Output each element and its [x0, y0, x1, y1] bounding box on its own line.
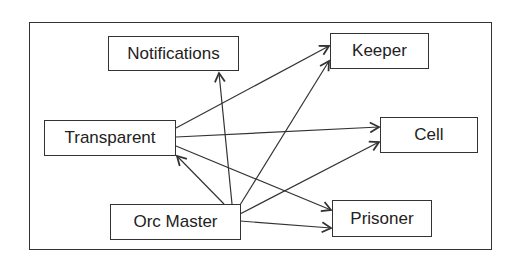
node-transparent: Transparent — [44, 120, 176, 156]
edge-orcmaster-notifications — [219, 73, 232, 204]
node-label: Prisoner — [350, 209, 413, 229]
node-label: Orc Master — [133, 212, 217, 232]
diagram: Notifications Keeper Transparent Cell Or… — [0, 0, 517, 270]
edge-orcmaster-prisoner — [240, 221, 331, 228]
node-keeper: Keeper — [330, 33, 429, 69]
node-cell: Cell — [380, 117, 478, 153]
node-label: Transparent — [64, 128, 155, 148]
node-label: Notifications — [127, 44, 220, 64]
node-notifications: Notifications — [108, 36, 239, 71]
node-label: Keeper — [352, 41, 407, 61]
edge-transparent-cell — [176, 127, 379, 137]
node-orc-master: Orc Master — [110, 204, 241, 240]
node-label: Cell — [414, 125, 443, 145]
node-prisoner: Prisoner — [332, 200, 432, 237]
